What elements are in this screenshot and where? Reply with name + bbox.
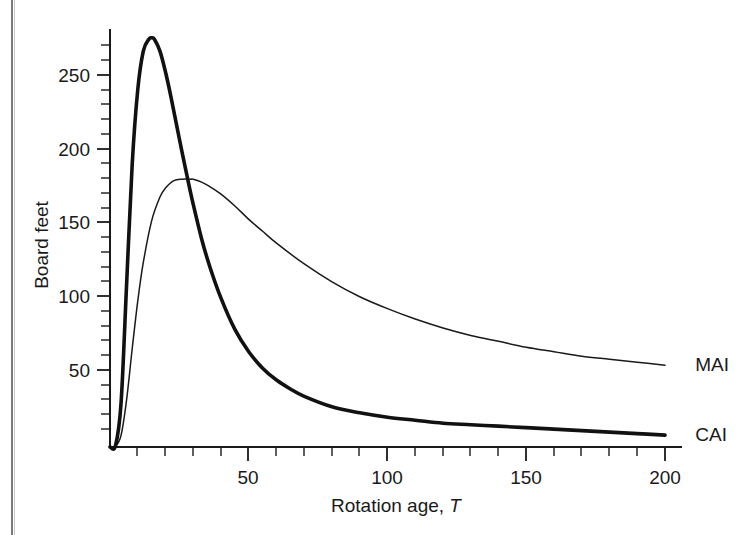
x-axis-title-text: Rotation age, xyxy=(331,495,444,516)
series-label-cai: CAI xyxy=(695,424,727,445)
y-tick-label: 50 xyxy=(69,360,90,381)
y-tick-label: 100 xyxy=(58,286,90,307)
series-annotations: MAI CAI xyxy=(695,354,729,445)
axes-group xyxy=(110,30,681,447)
x-tick-label: 150 xyxy=(510,467,542,488)
y-tick-label: 150 xyxy=(58,212,90,233)
y-axis-tick-labels: 50 100 150 200 250 xyxy=(58,65,90,381)
y-tick-label: 200 xyxy=(58,139,90,160)
x-axis-title: Rotation age, T xyxy=(331,495,462,516)
x-axis-title-symbol: T xyxy=(449,495,462,516)
increment-curves-chart: 50 100 150 200 250 50 100 150 200 MAI CA… xyxy=(0,0,739,535)
x-axis-tick-labels: 50 100 150 200 xyxy=(237,467,680,488)
series-line-mai xyxy=(110,179,665,447)
x-tick-label: 50 xyxy=(237,467,258,488)
y-tick-label: 250 xyxy=(58,65,90,86)
y-axis-title: Board feet xyxy=(31,200,52,288)
x-tick-label: 200 xyxy=(649,467,681,488)
figure-container: 50 100 150 200 250 50 100 150 200 MAI CA… xyxy=(0,0,739,535)
x-tick-label: 100 xyxy=(371,467,403,488)
y-axis-ticks xyxy=(97,45,110,429)
series-label-mai: MAI xyxy=(695,354,729,375)
series-line-cai xyxy=(110,38,665,450)
x-axis-ticks xyxy=(137,447,665,461)
